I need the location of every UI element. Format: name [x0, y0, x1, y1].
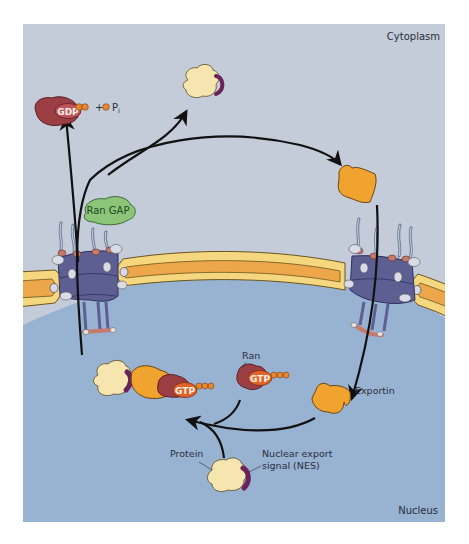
protein-label: Protein [170, 448, 203, 459]
nes-label-line1: Nuclear export [262, 448, 333, 459]
nuclear-envelope-left [18, 270, 64, 307]
gtp-free-label: GTP [250, 374, 270, 384]
gtp-complex-label: GTP [175, 386, 195, 396]
plus-sign: + [95, 102, 103, 113]
ran-gap: Ran GAP [84, 197, 135, 225]
ran-gap-label: Ran GAP [87, 205, 130, 216]
nuclear-export-diagram: Ran GAP GDP + Pi [0, 0, 469, 544]
nucleus-label: Nucleus [398, 505, 438, 516]
ran-label: Ran [242, 350, 260, 361]
exportin-label: Exportin [355, 385, 395, 396]
cytoplasm-label: Cytoplasm [387, 31, 440, 42]
nes-label-line2: signal (NES) [262, 460, 320, 471]
